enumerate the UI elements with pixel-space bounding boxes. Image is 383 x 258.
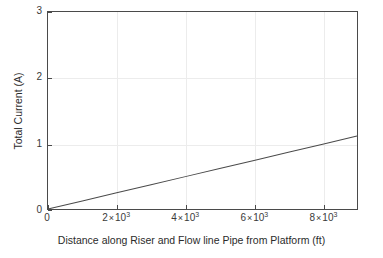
- tick-mantissa: 0: [44, 212, 50, 223]
- x-tick-label: 0: [44, 212, 50, 224]
- y-axis-title: Total Current (A): [12, 72, 25, 149]
- tick-base: 10: [115, 212, 126, 223]
- x-tick-label: 4×103: [171, 212, 199, 224]
- tick-base: 10: [322, 212, 333, 223]
- x-tick-mark: [48, 205, 49, 209]
- y-tick-label: 1: [36, 139, 42, 149]
- x-tick-mark: [255, 205, 256, 209]
- tick-multiplication-sign: ×: [315, 213, 322, 223]
- x-axis-title: Distance along Riser and Flow line Pipe …: [0, 234, 383, 247]
- x-tick-label: 2×103: [102, 212, 130, 224]
- tick-mantissa: 4: [171, 212, 177, 223]
- x-tick-label: 8×103: [310, 212, 338, 224]
- tick-exponent: 3: [126, 211, 130, 218]
- chart-figure: 02×1034×1036×1038×103 0123 Distance alon…: [0, 0, 383, 258]
- y-tick-mark: [48, 78, 52, 79]
- series-total-current-line: [48, 136, 357, 209]
- x-tick-mark: [324, 205, 325, 209]
- y-tick-mark: [48, 145, 52, 146]
- plot-area: [47, 11, 358, 210]
- x-tick-mark: [117, 205, 118, 209]
- tick-exponent: 3: [195, 211, 199, 218]
- x-tick-mark: [186, 205, 187, 209]
- y-tick-mark: [48, 12, 52, 13]
- y-tick-label: 0: [36, 205, 42, 215]
- tick-multiplication-sign: ×: [177, 213, 184, 223]
- y-axis-title-wrapper: Total Current (A): [11, 11, 25, 210]
- tick-multiplication-sign: ×: [108, 213, 115, 223]
- tick-mantissa: 2: [102, 212, 108, 223]
- y-tick-label: 2: [36, 72, 42, 82]
- y-tick-label: 3: [36, 6, 42, 16]
- x-tick-label: 6×103: [240, 212, 268, 224]
- tick-base: 10: [253, 212, 264, 223]
- tick-exponent: 3: [264, 211, 268, 218]
- tick-multiplication-sign: ×: [246, 213, 253, 223]
- y-tick-mark: [48, 210, 52, 211]
- tick-base: 10: [184, 212, 195, 223]
- tick-exponent: 3: [333, 211, 337, 218]
- tick-mantissa: 8: [310, 212, 316, 223]
- series-line-chart: [48, 12, 357, 209]
- tick-mantissa: 6: [240, 212, 246, 223]
